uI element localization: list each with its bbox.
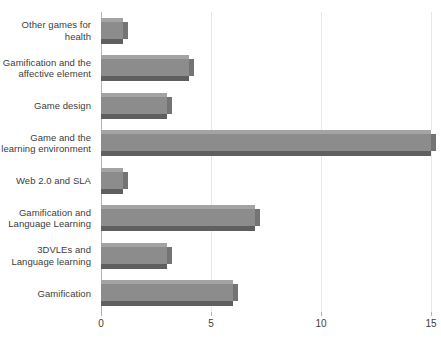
bar-face	[101, 172, 123, 189]
bar-slot	[101, 50, 431, 88]
bars-layer	[101, 12, 431, 312]
category-label: 3DVLEs and Language learning	[0, 237, 95, 275]
category-label: Gamification and the affective element	[0, 50, 95, 88]
bar-corner	[431, 130, 436, 134]
category-label: Web 2.0 and SLA	[0, 162, 95, 200]
value-axis: 051015	[101, 312, 431, 338]
bar[interactable]	[101, 18, 128, 44]
bar-slot	[101, 162, 431, 200]
bar[interactable]	[101, 55, 194, 81]
gridline	[431, 12, 432, 312]
bar-slot	[101, 87, 431, 125]
bar-face	[101, 59, 189, 76]
tick-label: 10	[315, 318, 326, 329]
bar-slot	[101, 237, 431, 275]
bar-chart: Other games for health Gamification and …	[0, 0, 441, 342]
tick-label: 5	[208, 318, 214, 329]
category-label: Game design	[0, 87, 95, 125]
bar[interactable]	[101, 205, 260, 231]
bar-corner	[167, 93, 172, 97]
bar-slot	[101, 200, 431, 238]
bar-corner	[123, 168, 128, 172]
plot-area	[101, 12, 431, 312]
bar-bottom	[101, 151, 431, 156]
bar-bottom	[101, 76, 189, 81]
tick-mark	[431, 312, 432, 316]
bar[interactable]	[101, 280, 238, 306]
bar-slot	[101, 275, 431, 313]
bar-bottom	[101, 226, 255, 231]
bar-bottom	[101, 264, 167, 269]
bar[interactable]	[101, 168, 128, 194]
tick-label: 0	[98, 318, 104, 329]
bar[interactable]	[101, 243, 172, 269]
bar-bottom	[101, 301, 233, 306]
bar-bottom	[101, 39, 123, 44]
tick-label: 15	[425, 318, 436, 329]
bar-face	[101, 134, 431, 151]
bar-corner	[189, 55, 194, 59]
tick-mark	[211, 312, 212, 316]
bar-corner	[123, 18, 128, 22]
bar[interactable]	[101, 93, 172, 119]
bar-slot	[101, 12, 431, 50]
bar-face	[101, 209, 255, 226]
bar-face	[101, 22, 123, 39]
category-label: Other games for health	[0, 12, 95, 50]
bar-bottom	[101, 189, 123, 194]
bar-bottom	[101, 114, 167, 119]
category-label: Gamification and Language Learning	[0, 200, 95, 238]
category-axis: Other games for health Gamification and …	[0, 12, 95, 312]
category-label: Game and the learning environment	[0, 125, 95, 163]
bar-slot	[101, 125, 431, 163]
bar-corner	[233, 280, 238, 284]
bar[interactable]	[101, 130, 436, 156]
bar-face	[101, 284, 233, 301]
category-label: Gamification	[0, 275, 95, 313]
tick-mark	[321, 312, 322, 316]
bar-corner	[167, 243, 172, 247]
bar-corner	[255, 205, 260, 209]
tick-mark	[101, 312, 102, 316]
bar-face	[101, 247, 167, 264]
bar-face	[101, 97, 167, 114]
